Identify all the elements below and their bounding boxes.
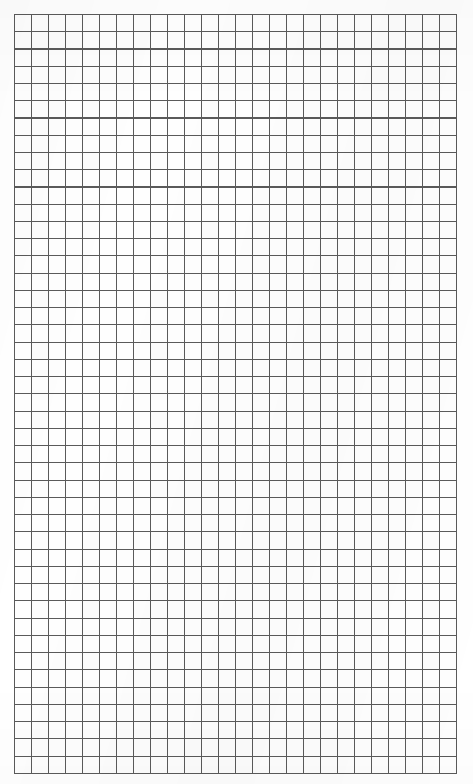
grid-border-right xyxy=(456,14,457,774)
graph-paper-page xyxy=(0,0,473,784)
grid-sheet[interactable] xyxy=(14,14,457,774)
grid-border-top xyxy=(14,14,457,15)
grid-border-left xyxy=(14,14,15,774)
grid-border-bottom xyxy=(14,773,457,774)
